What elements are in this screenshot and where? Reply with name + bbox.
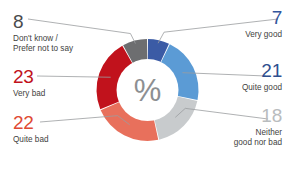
callout-neither: 18 Neither good nor bad	[190, 106, 282, 148]
callout-quite-bad: 22 Quite bad	[13, 113, 93, 145]
chart-container: % 8 Don't know / Prefer not to say 23 Ve…	[0, 0, 291, 169]
callout-quite-good: 21 Quite good	[190, 61, 282, 93]
callout-dont-know-label: Don't know / Prefer not to say	[13, 34, 105, 54]
callout-very-good: 7 Very good	[190, 8, 282, 40]
percent-symbol-text: %	[134, 73, 162, 108]
callout-quite-bad-label: Quite bad	[13, 135, 93, 145]
callout-neither-value: 18	[190, 106, 282, 125]
callout-very-bad-value: 23	[13, 67, 93, 86]
callout-very-bad: 23 Very bad	[13, 67, 93, 99]
callout-very-bad-label: Very bad	[13, 89, 93, 99]
callout-quite-good-value: 21	[190, 61, 282, 80]
callout-quite-good-label: Quite good	[190, 83, 282, 93]
callout-neither-label: Neither good nor bad	[190, 128, 282, 148]
callout-very-good-value: 7	[190, 8, 282, 27]
callout-very-good-label: Very good	[190, 30, 282, 40]
callout-dont-know-value: 8	[13, 12, 105, 31]
callout-dont-know: 8 Don't know / Prefer not to say	[13, 12, 105, 54]
callout-quite-bad-value: 22	[13, 113, 93, 132]
